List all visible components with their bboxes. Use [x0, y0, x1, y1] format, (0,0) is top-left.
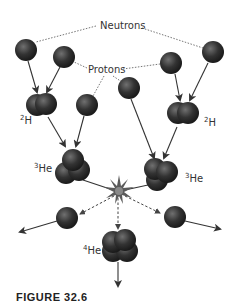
figure-caption: FIGURE 32.6	[16, 291, 88, 303]
proton-right	[160, 52, 182, 74]
proton-left-lower	[76, 94, 98, 116]
deuterium-left	[26, 93, 57, 116]
he4-label: 4He	[83, 244, 101, 256]
he3-right-label: 3He	[185, 172, 203, 184]
protons-label: Protons	[88, 64, 125, 75]
helium3-left	[55, 149, 90, 184]
proton-left	[53, 46, 75, 68]
emission-arrows	[80, 196, 160, 229]
proton-center	[118, 77, 140, 99]
h2-right-label: 2H	[204, 116, 216, 128]
h2-left-label: 2H	[20, 114, 32, 126]
proton-emitted-left	[56, 207, 78, 229]
neutrons-label: Neutrons	[100, 20, 145, 31]
neutron-top-right	[202, 41, 224, 63]
proton-emitted-right	[164, 206, 186, 228]
helium4	[102, 229, 138, 262]
helium3-right	[144, 158, 178, 191]
he3-left-label: 3He	[34, 162, 52, 174]
deuterium-right	[167, 102, 199, 124]
neutron-top-left	[15, 39, 37, 61]
